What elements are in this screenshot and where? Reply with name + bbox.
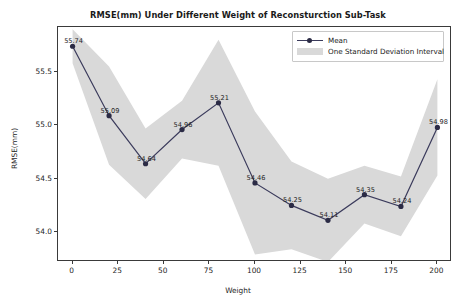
x-axis-label: Weight [0,286,476,295]
x-tick-label: 25 [112,266,121,275]
y-tick-label: 55.0 [22,120,52,129]
data-point-label: 55.74 [64,37,83,45]
x-tick-label: 100 [247,266,261,275]
chart-legend: Mean One Standard Deviation Interval [292,31,444,62]
data-point-label: 55.09 [101,107,120,115]
y-tick-label: 54.5 [22,173,52,182]
plot-svg [58,27,451,261]
line-marker-icon [297,36,323,46]
x-tick-label: 150 [338,266,352,275]
x-tick-mark [391,261,392,264]
std-deviation-band [73,29,438,261]
y-tick-mark [54,124,57,125]
x-tick-label: 0 [69,266,74,275]
data-point-label: 54.11 [320,211,339,219]
x-tick-mark [345,261,346,264]
x-tick-mark [117,261,118,264]
data-point-label: 55.21 [210,94,229,102]
chart-title: RMSE(mm) Under Different Weight of Recon… [0,10,476,20]
legend-item-std-interval: One Standard Deviation Interval [297,46,439,57]
data-point-label: 54.35 [356,186,375,194]
y-tick-label: 55.5 [22,66,52,75]
x-tick-mark [163,261,164,264]
data-point-label: 54.96 [174,121,193,129]
data-point-label: 54.46 [247,174,266,182]
data-point-label: 54.25 [283,196,302,204]
y-tick-label: 54.0 [22,227,52,236]
x-tick-label: 200 [429,266,443,275]
x-tick-label: 125 [293,266,307,275]
x-tick-mark [254,261,255,264]
x-tick-mark [72,261,73,264]
y-tick-mark [54,178,57,179]
x-tick-label: 75 [204,266,213,275]
x-tick-label: 50 [158,266,167,275]
data-point-label: 54.98 [429,118,448,126]
x-tick-label: 175 [384,266,398,275]
legend-label-std-interval: One Standard Deviation Interval [328,47,444,56]
x-tick-mark [436,261,437,264]
legend-item-mean: Mean [297,35,439,46]
data-point-label: 54.24 [392,197,411,205]
shaded-patch-icon [297,47,323,57]
data-point-label: 54.64 [137,155,156,163]
y-axis-label: RMSE(mm) [10,128,19,169]
legend-label-mean: Mean [328,36,348,45]
chart-figure: RMSE(mm) Under Different Weight of Recon… [0,0,476,306]
x-tick-mark [208,261,209,264]
y-tick-mark [54,71,57,72]
y-tick-mark [54,231,57,232]
x-tick-mark [300,261,301,264]
